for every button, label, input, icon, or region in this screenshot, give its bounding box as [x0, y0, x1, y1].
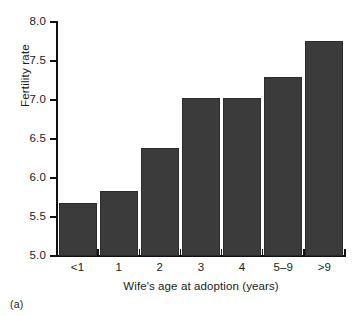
bar: [305, 41, 343, 256]
y-axis-tick-label: 5.0: [6, 250, 46, 262]
y-axis-tick-label: 8.0: [6, 16, 46, 28]
y-axis-tick-label: 7.5: [6, 55, 46, 67]
y-axis-tick: [50, 60, 57, 62]
panel-caption: (a): [10, 298, 23, 310]
y-axis-tick: [50, 177, 57, 179]
bar: [182, 98, 220, 256]
bar: [100, 191, 138, 256]
x-axis-title: Wife's age at adoption (years): [57, 280, 345, 292]
y-axis-tick: [50, 216, 57, 218]
y-axis-tick: [50, 21, 57, 23]
bar: [223, 98, 261, 256]
y-axis-tick-label: 5.5: [6, 211, 46, 223]
plot-area: [57, 22, 345, 256]
y-axis-tick: [50, 138, 57, 140]
y-axis-tick-label: 6.5: [6, 133, 46, 145]
bar: [141, 148, 179, 256]
figure-panel-a: Fertility rate 5.05.56.06.57.07.58.0 <11…: [0, 0, 354, 316]
y-axis-tick: [50, 99, 57, 101]
y-axis-tick-label: 7.0: [6, 94, 46, 106]
bar: [59, 203, 97, 256]
y-axis-tick-label: 6.0: [6, 172, 46, 184]
x-axis-tick-label: >9: [297, 261, 351, 274]
bar: [264, 77, 302, 256]
